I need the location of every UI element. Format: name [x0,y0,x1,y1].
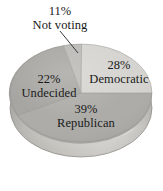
republican-percent: 39% [40,102,132,116]
label-democratic: 28% Democratic [79,58,159,86]
label-undecided: 22% Undecided [8,72,90,100]
pie-chart-figure: 11% Not voting 28% Democratic 22% Undeci… [0,0,163,191]
republican-name: Republican [40,116,132,130]
democratic-name: Democratic [79,72,159,86]
not-voting-name: Not voting [8,18,112,32]
undecided-name: Undecided [8,86,90,100]
undecided-percent: 22% [8,72,90,86]
not-voting-percent: 11% [8,4,112,18]
label-not-voting: 11% Not voting [8,4,112,32]
label-republican: 39% Republican [40,102,132,130]
democratic-percent: 28% [79,58,159,72]
